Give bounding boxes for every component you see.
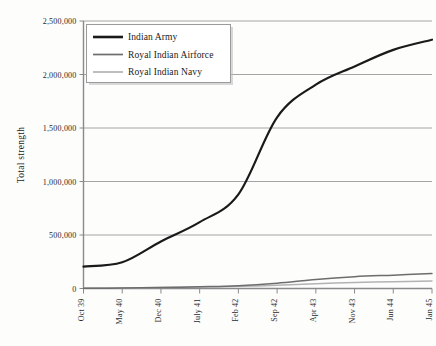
strength-line-chart: 0500,0001,000,0001,500,0002,000,0002,500… (0, 0, 436, 346)
legend-label-royal-indian-airforce: Royal Indian Airforce (128, 50, 213, 60)
x-tick-label: Jun 44 (386, 299, 395, 321)
y-tick-label: 2,000,000 (43, 71, 77, 80)
y-tick-label: 1,000,000 (43, 178, 77, 187)
y-tick-label: 500,000 (49, 231, 76, 240)
x-tick-label: Feb 42 (231, 299, 240, 322)
x-tick-label: July 41 (193, 299, 202, 324)
x-tick-label: Oct 39 (77, 299, 86, 322)
chart-container: 0500,0001,000,0001,500,0002,000,0002,500… (0, 0, 436, 346)
y-tick-label: 2,500,000 (43, 17, 77, 26)
chart-legend: Indian ArmyRoyal Indian AirforceRoyal In… (87, 25, 234, 86)
x-tick-label: Sep 42 (270, 299, 279, 322)
x-tick-label: Nov 43 (348, 299, 357, 324)
legend-label-indian-army: Indian Army (128, 32, 178, 42)
y-tick-label: 0 (72, 285, 76, 294)
x-tick-label: May 40 (115, 299, 124, 325)
x-tick-label: Apr 43 (309, 299, 318, 323)
x-tick-label: Dec 40 (154, 299, 163, 323)
legend-label-royal-indian-navy: Royal Indian Navy (128, 67, 202, 77)
y-tick-label: 1,500,000 (43, 124, 77, 133)
x-tick-label: Jan 45 (425, 299, 434, 321)
y-axis-title: Total strength (16, 127, 26, 184)
